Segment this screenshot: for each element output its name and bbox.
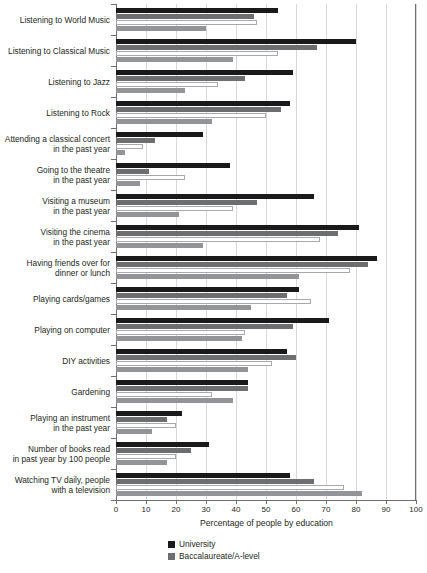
bar [116,144,143,149]
bar [116,398,233,403]
bar [116,138,155,143]
bar [116,243,203,248]
chart-legend: University Baccalaureate/A-level [168,538,260,562]
bar [116,349,287,354]
bar [116,70,293,75]
bar [116,491,362,496]
x-tick-label: 10 [131,505,161,514]
bar [116,101,290,106]
bar-group [116,438,416,469]
x-tick-label: 0 [101,505,131,514]
bar [116,479,314,484]
bar-group [116,407,416,438]
bar-group [116,190,416,221]
bar [116,268,350,273]
legend-item: Baccalaureate/A-level [168,550,260,562]
bar [116,51,278,56]
bar [116,262,368,267]
category-label: Having friends over for dinner or lunch [0,258,110,278]
x-tick-label: 70 [311,505,341,514]
bar [116,225,359,230]
bar-group [116,252,416,283]
x-tick-label: 20 [161,505,191,514]
bar [116,454,176,459]
bar [116,194,314,199]
bar [116,460,167,465]
bar [116,324,293,329]
x-tick-label: 90 [371,505,401,514]
bar [116,113,266,118]
bar [116,119,212,124]
bar [116,442,209,447]
x-tick [296,500,297,504]
category-label: Listening to Jazz [0,77,110,87]
bar [116,20,257,25]
bar [116,150,125,155]
x-tick-label: 60 [281,505,311,514]
bar [116,88,185,93]
bar [116,181,140,186]
bar [116,39,356,44]
category-label: Listening to Rock [0,108,110,118]
bar-group [116,376,416,407]
category-label: Visiting the cinema in the past year [0,227,110,247]
category-label: Watching TV daily, people with a televis… [0,475,110,495]
category-label: Going to the theatre in the past year [0,165,110,185]
bar [116,293,287,298]
bar [116,256,377,261]
x-tick-label: 100 [401,505,427,514]
bar-group [116,66,416,97]
x-tick [236,500,237,504]
x-tick-label: 50 [251,505,281,514]
x-tick [386,500,387,504]
bar [116,411,182,416]
category-label: Playing cards/games [0,294,110,304]
bar [116,206,233,211]
x-tick [416,500,417,504]
bar [116,485,344,490]
bar-group [116,221,416,252]
bar [116,318,329,323]
bar-group [116,314,416,345]
bar [116,380,248,385]
x-tick [116,500,117,504]
legend-label-university: University [179,539,215,549]
legend-swatch-baccalaureate [168,553,175,560]
x-tick [176,500,177,504]
x-tick [326,500,327,504]
bar-group [116,4,416,35]
bar [116,45,317,50]
bar-group [116,159,416,190]
bar [116,8,278,13]
bar [116,107,281,112]
x-tick [146,500,147,504]
x-tick [266,500,267,504]
bar [116,305,251,310]
bar [116,14,254,19]
x-tick-label: 40 [221,505,251,514]
bar [116,175,185,180]
bar-group [116,35,416,66]
bar [116,448,191,453]
bar [116,76,245,81]
category-label: Playing an instrument in the past year [0,413,110,433]
bar [116,82,218,87]
category-label: Gardening [0,387,110,397]
legend-label-baccalaureate: Baccalaureate/A-level [179,551,260,561]
category-label: Attending a classical concert in the pas… [0,134,110,154]
category-label: Visiting a museum in the past year [0,196,110,216]
bar [116,367,248,372]
y-group-tick [111,500,116,501]
category-label: Listening to World Music [0,15,110,25]
x-tick [356,500,357,504]
bar [116,200,257,205]
bar-group [116,283,416,314]
bar [116,287,299,292]
category-label: Listening to Classical Music [0,46,110,56]
x-tick-label: 80 [341,505,371,514]
bar [116,429,152,434]
bar-group [116,97,416,128]
bar [116,417,167,422]
bar [116,473,290,478]
